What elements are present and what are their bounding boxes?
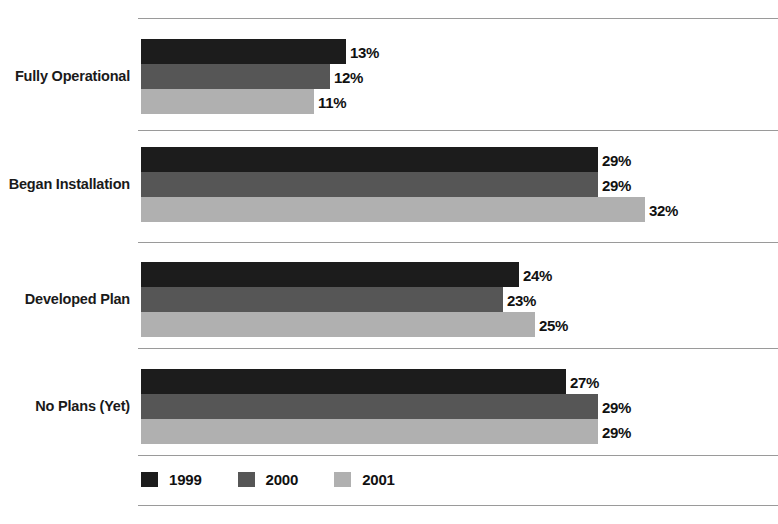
bar-1999[interactable] <box>141 147 598 172</box>
bar-row: 25% <box>141 312 605 337</box>
bar-value-label: 23% <box>503 291 536 308</box>
bar-value-label: 25% <box>535 316 568 333</box>
bar-value-label: 29% <box>598 398 631 415</box>
bar-2000[interactable] <box>141 172 598 197</box>
bar-value-label: 29% <box>598 423 631 440</box>
bar-row: 29% <box>141 172 668 197</box>
category-label: Began Installation <box>0 176 130 192</box>
bar-2001[interactable] <box>141 419 598 444</box>
legend-item-1999[interactable]: 1999 <box>141 471 202 488</box>
bar-1999[interactable] <box>141 39 346 64</box>
bar-row: 12% <box>141 64 400 89</box>
bar-row: 27% <box>141 369 636 394</box>
bar-value-label: 13% <box>346 43 379 60</box>
legend-swatch-icon <box>334 472 351 487</box>
separator-rule <box>138 18 778 19</box>
bar-1999[interactable] <box>141 369 566 394</box>
bar-2001[interactable] <box>141 197 645 222</box>
bar-value-label: 11% <box>314 93 346 110</box>
bar-row: 29% <box>141 419 668 444</box>
separator-rule <box>138 505 778 506</box>
bar-value-label: 29% <box>598 176 631 193</box>
chart-title-remnant <box>150 0 450 12</box>
bar-2000[interactable] <box>141 287 503 312</box>
bar-value-label: 29% <box>598 151 631 168</box>
bar-row: 29% <box>141 394 668 419</box>
bar-value-label: 12% <box>330 68 363 85</box>
legend-label: 2000 <box>266 471 299 488</box>
separator-rule <box>138 130 778 131</box>
bar-2000[interactable] <box>141 394 598 419</box>
separator-rule <box>138 348 778 349</box>
category-label: Fully Operational <box>0 68 130 84</box>
bar-row: 24% <box>141 262 589 287</box>
bar-value-label: 27% <box>566 373 599 390</box>
bar-value-label: 24% <box>519 266 552 283</box>
bar-2001[interactable] <box>141 312 535 337</box>
separator-rule <box>138 242 778 243</box>
bar-row: 11% <box>141 89 384 114</box>
legend-label: 2001 <box>362 471 395 488</box>
bar-row: 29% <box>141 147 668 172</box>
chart-legend: 199920002001 <box>141 468 431 490</box>
category-label: Developed Plan <box>0 291 130 307</box>
bar-row: 32% <box>141 197 715 222</box>
bar-row: 23% <box>141 287 573 312</box>
legend-swatch-icon <box>238 472 255 487</box>
legend-label: 1999 <box>169 471 202 488</box>
bar-row: 13% <box>141 39 416 64</box>
bar-2001[interactable] <box>141 89 314 114</box>
separator-rule <box>138 455 778 456</box>
bar-value-label: 32% <box>645 201 678 218</box>
bar-1999[interactable] <box>141 262 519 287</box>
legend-item-2001[interactable]: 2001 <box>334 471 395 488</box>
bar-2000[interactable] <box>141 64 330 89</box>
bar-chart: Fully Operational13%12%11%Began Installa… <box>0 0 778 524</box>
legend-swatch-icon <box>141 472 158 487</box>
legend-item-2000[interactable]: 2000 <box>238 471 299 488</box>
category-label: No Plans (Yet) <box>0 398 130 414</box>
